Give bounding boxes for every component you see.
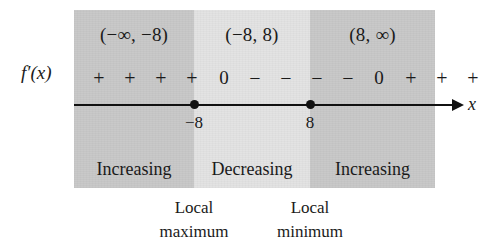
sign-mark-10: + [431, 65, 453, 91]
interval-label-middle: (−8, 8) [194, 21, 310, 49]
critical-point-dot-minus8 [190, 100, 199, 109]
extremum-caption-local-maximum: Local maximum [134, 196, 254, 244]
axis-variable-label: x [468, 94, 476, 114]
extremum-caption-max-line1: Local [134, 196, 254, 220]
behavior-label-row: Increasing Decreasing Increasing [74, 156, 435, 182]
sign-zero-left: 0 [213, 65, 235, 91]
sign-mark-11: + [462, 65, 484, 91]
sign-mark-7: − [306, 65, 328, 91]
sign-mark-2: + [119, 65, 141, 91]
extremum-caption-local-minimum: Local minimum [250, 196, 370, 244]
critical-point-label-8: 8 [287, 112, 333, 134]
critical-point-label-minus8: −8 [171, 112, 217, 134]
behavior-label-middle: Decreasing [194, 156, 310, 182]
interval-label-row: (−∞, −8) (−8, 8) (8, ∞) [74, 21, 435, 49]
sign-mark-5: − [244, 65, 266, 91]
extremum-caption-max-line2: maximum [134, 220, 254, 244]
derivative-row-label-text: f′(x) [21, 62, 52, 83]
sign-zero-right: 0 [368, 65, 390, 91]
number-line-axis [74, 104, 455, 106]
behavior-label-right: Increasing [310, 156, 435, 182]
extremum-caption-min-line2: minimum [250, 220, 370, 244]
derivative-row-label: f′(x) [21, 60, 52, 86]
sign-mark-1: + [88, 65, 110, 91]
interval-label-left: (−∞, −8) [74, 21, 194, 49]
interval-label-right: (8, ∞) [310, 21, 435, 49]
sign-mark-6: − [275, 65, 297, 91]
sign-mark-9: + [400, 65, 422, 91]
sign-chart-figure: (−∞, −8) (−8, 8) (8, ∞) + + + + 0 − − − … [74, 10, 435, 188]
extremum-caption-min-line1: Local [250, 196, 370, 220]
sign-mark-8: − [337, 65, 359, 91]
sign-row: + + + + 0 − − − − 0 + + + + [74, 65, 435, 91]
axis-arrow-icon [452, 99, 464, 111]
sign-mark-4: + [181, 65, 203, 91]
sign-mark-3: + [150, 65, 172, 91]
critical-point-dot-8 [306, 100, 315, 109]
behavior-label-left: Increasing [74, 156, 194, 182]
